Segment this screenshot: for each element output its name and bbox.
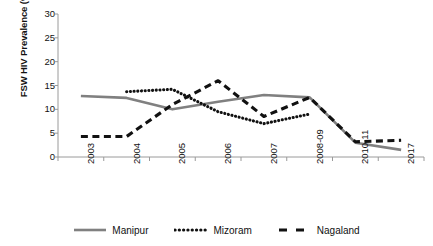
- dotted-line-swatch: [174, 225, 208, 235]
- legend-label: Nagaland: [317, 225, 360, 236]
- data-series-layer: [81, 81, 401, 150]
- x-tick-label: 2005: [177, 143, 187, 164]
- x-tick-label: 2003: [86, 143, 96, 164]
- series-line-nagaland: [81, 81, 401, 142]
- dashed-line-swatch: [278, 225, 312, 235]
- x-tick-label: 2004: [132, 143, 142, 164]
- legend-label: Mizoram: [213, 225, 251, 236]
- x-tick-label: 2010-11: [360, 130, 370, 164]
- solid-line-swatch: [73, 225, 107, 235]
- x-tick-label: 2017: [406, 143, 416, 164]
- x-tick-label: 2008-09: [315, 129, 325, 164]
- x-tick-label: 2006: [223, 143, 233, 164]
- legend-item-nagaland[interactable]: Nagaland: [278, 225, 360, 236]
- chart-legend: ManipurMizoramNagaland: [0, 219, 433, 241]
- plot-area: [0, 0, 433, 246]
- series-line-mizoram: [127, 89, 310, 123]
- legend-label: Manipur: [112, 225, 148, 236]
- x-tick-label: 2007: [269, 143, 279, 164]
- legend-item-mizoram[interactable]: Mizoram: [174, 225, 251, 236]
- fsw-hiv-prevalence-line-chart: FSW HIV Prevalence (%) 051015202530 2003…: [0, 0, 433, 246]
- legend-item-manipur[interactable]: Manipur: [73, 225, 148, 236]
